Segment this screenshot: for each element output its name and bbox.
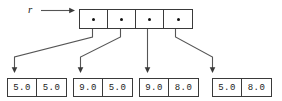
value-cell: 9.0 (74, 79, 103, 96)
value-cell: 5.0 (103, 79, 132, 96)
pointer-cell-0[interactable] (80, 10, 108, 28)
pointer-cell-3[interactable] (164, 10, 192, 28)
value-array-0: 5.0 5.0 (7, 78, 67, 97)
pointer-array (79, 9, 193, 29)
value-cell: 9.0 (140, 79, 169, 96)
value-cell: 5.0 (37, 79, 66, 96)
pointer-cell-1[interactable] (108, 10, 136, 28)
pointer-dot-icon (148, 18, 151, 21)
pointer-cell-2[interactable] (136, 10, 164, 28)
value-array-3: 5.0 8.0 (212, 78, 272, 97)
pointer-dot-icon (92, 18, 95, 21)
root-variable-label: r (28, 4, 33, 15)
value-cell: 5.0 (8, 79, 37, 96)
pointer-dot-icon (177, 18, 180, 21)
value-cell: 5.0 (213, 79, 242, 96)
pointer-dot-icon (120, 18, 123, 21)
pointer-diagram-canvas: r 5.0 5.0 9.0 5.0 9.0 8.0 5.0 8.0 (0, 0, 282, 101)
value-array-1: 9.0 5.0 (73, 78, 133, 97)
value-array-2: 9.0 8.0 (139, 78, 199, 97)
value-cell: 8.0 (169, 79, 198, 96)
value-cell: 8.0 (242, 79, 271, 96)
